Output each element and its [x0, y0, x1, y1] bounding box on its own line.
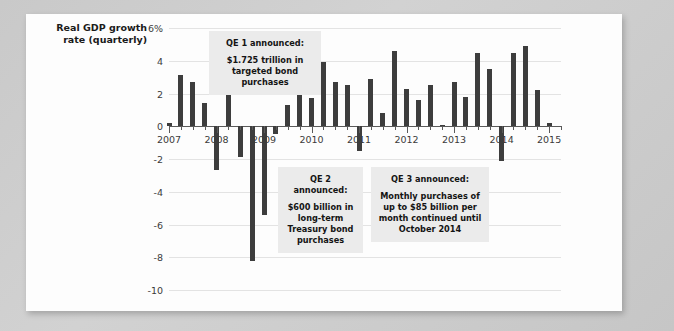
x-tick-minor	[252, 126, 253, 130]
x-tick-major	[407, 126, 408, 133]
bar	[178, 75, 183, 126]
bar	[380, 113, 385, 126]
x-tick-minor	[418, 126, 419, 130]
x-tick-major	[454, 126, 455, 133]
x-tick-major	[264, 126, 265, 133]
x-tick-minor	[193, 126, 194, 130]
y-tick-label: -6	[154, 219, 163, 230]
x-tick-minor	[181, 126, 182, 130]
bar	[368, 79, 373, 126]
bar	[523, 46, 528, 126]
chart-card: Real GDP growth rate (quarterly) 6%420-2…	[26, 14, 622, 311]
x-tick-minor	[442, 126, 443, 130]
x-tick-minor	[478, 126, 479, 130]
annotation-qe3: QE 3 announced: Monthly purchases of up …	[371, 167, 489, 242]
y-axis-title: Real GDP growth rate (quarterly)	[39, 22, 147, 46]
x-tick-label: 2009	[252, 134, 276, 145]
y-tick-label: -4	[154, 186, 163, 197]
x-tick-minor	[288, 126, 289, 130]
x-tick-label: 2014	[490, 134, 514, 145]
annotation-qe2: QE 2 announced: $600 billion in long-ter…	[278, 167, 363, 253]
bar	[416, 100, 421, 126]
x-tick-minor	[347, 126, 348, 130]
bar	[309, 98, 314, 126]
annotation-qe3-heading: QE 3 announced:	[377, 174, 483, 185]
x-tick-minor	[276, 126, 277, 130]
bar	[463, 97, 468, 126]
x-tick-minor	[395, 126, 396, 130]
bar	[487, 69, 492, 126]
annotation-qe2-body: $600 billion in long-term Treasury bond …	[284, 202, 357, 246]
bar	[452, 82, 457, 126]
annotation-qe1-body: $1.725 trillion in targeted bond purchas…	[215, 55, 315, 88]
bar	[428, 85, 433, 126]
bar	[285, 105, 290, 126]
bar	[202, 103, 207, 126]
x-tick-major	[312, 126, 313, 133]
x-tick-minor	[525, 126, 526, 130]
x-tick-minor	[240, 126, 241, 130]
annotation-qe1-heading: QE 1 announced:	[215, 38, 315, 49]
x-tick-minor	[430, 126, 431, 130]
x-tick-major	[549, 126, 550, 133]
bar	[250, 126, 255, 260]
bar	[535, 90, 540, 126]
x-axis-ticks: 200720082009201020112012201320142015	[169, 126, 561, 136]
annotation-qe3-body: Monthly purchases of up to $85 billion p…	[377, 191, 483, 235]
x-tick-label: 2010	[299, 134, 323, 145]
x-tick-label: 2015	[537, 134, 561, 145]
x-tick-minor	[371, 126, 372, 130]
x-tick-minor	[228, 126, 229, 130]
x-tick-major	[359, 126, 360, 133]
bar	[475, 53, 480, 127]
x-tick-minor	[561, 126, 562, 130]
x-tick-label: 2007	[157, 134, 181, 145]
y-tick-label: -2	[154, 154, 163, 165]
bar	[392, 51, 397, 126]
x-tick-minor	[513, 126, 514, 130]
x-tick-major	[502, 126, 503, 133]
gridline	[169, 290, 561, 291]
y-tick-label: -8	[154, 252, 163, 263]
bar	[404, 89, 409, 127]
x-tick-minor	[300, 126, 301, 130]
x-tick-label: 2011	[347, 134, 371, 145]
annotation-qe2-heading: QE 2 announced:	[284, 174, 357, 196]
x-tick-major	[169, 126, 170, 133]
gdp-growth-bar-chart: Real GDP growth rate (quarterly) 6%420-2…	[26, 14, 622, 311]
bar	[321, 62, 326, 126]
bar	[511, 53, 516, 127]
y-tick-label: 2	[157, 88, 163, 99]
bar	[345, 85, 350, 126]
x-tick-minor	[205, 126, 206, 130]
x-tick-minor	[335, 126, 336, 130]
bar	[226, 94, 231, 127]
screenshot-root: Real GDP growth rate (quarterly) 6%420-2…	[0, 0, 674, 331]
x-tick-minor	[466, 126, 467, 130]
annotation-qe1: QE 1 announced: $1.725 trillion in targe…	[209, 31, 321, 95]
x-tick-label: 2013	[442, 134, 466, 145]
y-tick-label: 6%	[148, 23, 163, 34]
x-tick-minor	[323, 126, 324, 130]
y-tick-label: 4	[157, 55, 163, 66]
y-tick-label: 0	[157, 121, 163, 132]
x-tick-minor	[537, 126, 538, 130]
x-tick-label: 2008	[204, 134, 228, 145]
x-tick-minor	[383, 126, 384, 130]
x-tick-minor	[490, 126, 491, 130]
bar	[333, 82, 338, 126]
x-tick-label: 2012	[394, 134, 418, 145]
y-tick-label: -10	[147, 285, 163, 296]
x-tick-major	[217, 126, 218, 133]
bar	[190, 82, 195, 126]
